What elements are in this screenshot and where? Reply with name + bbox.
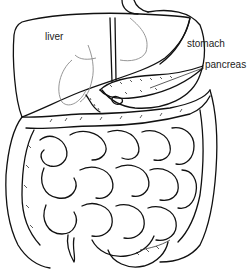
liver-shape bbox=[13, 13, 190, 117]
label-liver: liver bbox=[45, 32, 63, 42]
digestive-system-diagram: liver stomach pancreas bbox=[0, 0, 250, 280]
label-pancreas: pancreas bbox=[205, 60, 246, 70]
label-stomach: stomach bbox=[187, 39, 225, 49]
descending-colon bbox=[160, 90, 217, 262]
small-intestine bbox=[40, 128, 196, 267]
esophagus bbox=[122, 0, 148, 14]
duodenum bbox=[86, 95, 100, 112]
transverse-colon bbox=[22, 90, 210, 129]
ascending-colon bbox=[6, 117, 50, 268]
appendix bbox=[67, 235, 74, 262]
